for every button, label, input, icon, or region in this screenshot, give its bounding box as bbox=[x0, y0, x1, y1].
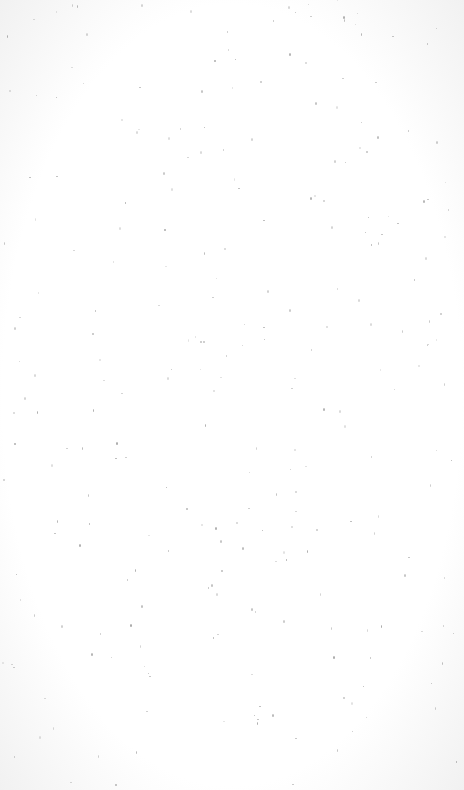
paper-speck bbox=[263, 220, 265, 221]
paper-speck bbox=[444, 383, 445, 386]
paper-speck bbox=[254, 715, 255, 716]
paper-speck bbox=[213, 637, 214, 639]
paper-speck bbox=[24, 397, 26, 400]
paper-speck bbox=[217, 634, 219, 635]
paper-speck bbox=[204, 127, 205, 128]
paper-speck bbox=[359, 147, 361, 149]
paper-speck bbox=[366, 151, 368, 153]
paper-speck bbox=[223, 149, 224, 151]
paper-speck bbox=[34, 374, 36, 377]
paper-speck bbox=[216, 593, 218, 596]
paper-speck bbox=[294, 449, 296, 451]
paper-speck bbox=[251, 138, 253, 141]
paper-speck bbox=[294, 378, 296, 379]
paper-speck bbox=[251, 674, 253, 675]
paper-speck bbox=[16, 574, 17, 575]
paper-speck bbox=[326, 326, 328, 328]
paper-speck bbox=[73, 250, 75, 251]
paper-speck bbox=[130, 624, 132, 627]
paper-speck bbox=[295, 12, 296, 13]
paper-speck bbox=[14, 443, 16, 445]
paper-speck bbox=[115, 458, 117, 459]
paper-speck bbox=[200, 151, 202, 154]
paper-speck bbox=[93, 409, 94, 412]
paper-speck bbox=[425, 257, 427, 260]
paper-speck bbox=[119, 227, 121, 230]
paper-speck bbox=[308, 4, 309, 5]
paper-speck bbox=[350, 521, 352, 522]
paper-speck bbox=[430, 484, 431, 487]
paper-speck bbox=[381, 625, 382, 628]
paper-speck bbox=[77, 5, 78, 8]
paper-speck bbox=[305, 466, 307, 467]
paper-speck bbox=[39, 736, 41, 739]
paper-speck bbox=[186, 508, 188, 510]
paper-speck bbox=[234, 178, 235, 181]
paper-speck bbox=[255, 611, 256, 613]
paper-speck bbox=[216, 278, 217, 279]
paper-speck bbox=[223, 721, 225, 722]
paper-speck bbox=[211, 584, 213, 587]
paper-speck bbox=[66, 448, 68, 449]
paper-speck bbox=[259, 706, 261, 707]
paper-speck bbox=[251, 608, 253, 611]
paper-speck bbox=[380, 369, 381, 371]
paper-speck bbox=[115, 784, 117, 786]
paper-speck bbox=[121, 393, 123, 394]
paper-speck bbox=[316, 529, 318, 531]
paper-speck bbox=[295, 491, 297, 493]
paper-speck bbox=[339, 410, 341, 413]
paper-speck bbox=[370, 323, 372, 326]
paper-speck bbox=[37, 411, 38, 414]
paper-speck bbox=[408, 557, 410, 558]
paper-speck bbox=[204, 252, 205, 255]
paper-speck bbox=[44, 698, 46, 699]
paper-speck bbox=[421, 631, 423, 632]
paper-speck bbox=[443, 625, 444, 627]
paper-speck bbox=[203, 341, 205, 343]
paper-speck bbox=[138, 129, 140, 130]
paper-speck bbox=[100, 633, 101, 635]
paper-speck bbox=[264, 339, 265, 340]
paper-speck bbox=[135, 569, 136, 572]
paper-speck bbox=[315, 102, 317, 105]
paper-speck bbox=[334, 160, 336, 163]
paper-speck bbox=[163, 172, 165, 175]
paper-speck bbox=[171, 188, 173, 191]
paper-speck bbox=[213, 390, 215, 392]
paper-speck bbox=[168, 137, 170, 140]
paper-speck bbox=[336, 106, 338, 109]
paper-speck bbox=[121, 119, 123, 121]
paper-speck bbox=[140, 645, 141, 648]
paper-speck bbox=[323, 408, 325, 411]
paper-speck bbox=[320, 593, 321, 596]
paper-speck bbox=[286, 559, 287, 561]
paper-speck bbox=[263, 327, 265, 328]
paper-speck bbox=[358, 299, 360, 302]
paper-speck bbox=[295, 738, 297, 739]
paper-speck bbox=[374, 532, 375, 535]
paper-speck bbox=[226, 355, 227, 357]
paper-speck bbox=[91, 653, 93, 656]
paper-speck bbox=[56, 176, 58, 177]
paper-speck bbox=[36, 95, 37, 96]
paper-speck bbox=[260, 81, 262, 83]
paper-speck bbox=[167, 377, 169, 380]
paper-speck bbox=[99, 359, 101, 361]
paper-speck bbox=[288, 6, 290, 9]
paper-speck bbox=[337, 0, 338, 1]
paper-speck bbox=[331, 627, 332, 630]
paper-speck bbox=[397, 223, 399, 224]
paper-speck bbox=[371, 456, 372, 458]
paper-speck bbox=[337, 288, 338, 290]
paper-speck bbox=[289, 53, 291, 56]
paper-speck bbox=[141, 4, 143, 7]
paper-speck bbox=[331, 226, 333, 229]
paper-speck bbox=[235, 59, 236, 60]
paper-speck bbox=[144, 666, 145, 667]
paper-speck bbox=[343, 697, 345, 699]
paper-speck bbox=[166, 487, 167, 488]
paper-speck bbox=[404, 574, 406, 577]
paper-speck bbox=[244, 324, 245, 325]
paper-speck bbox=[148, 673, 149, 674]
